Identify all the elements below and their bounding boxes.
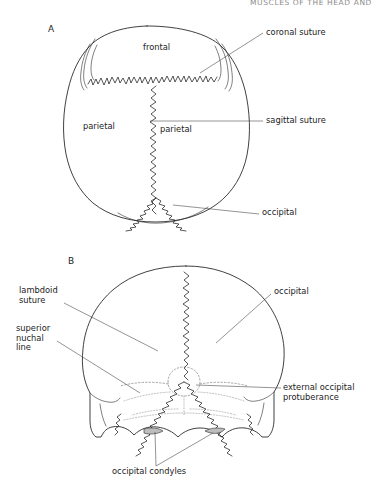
leader-occipital-b (216, 294, 271, 343)
leader-occipital-condyles-left (155, 432, 156, 466)
right-mastoid-process (244, 392, 274, 401)
occipital-condyle-left (144, 428, 163, 434)
right-temporal-margin-b (258, 403, 264, 425)
left-temporal-margin-b (100, 404, 106, 426)
superior-nuchal-line-left-lower (124, 392, 170, 401)
right-orbit-inner-a (215, 46, 221, 81)
left-mastoid-process (90, 393, 120, 402)
leader-external-occipital-protuberance (196, 385, 281, 388)
panel-letter-a: A (48, 24, 54, 34)
inferior-nuchal-line-right (190, 409, 236, 415)
label-occipital-b: occipital (274, 287, 309, 297)
right-zygomatic-arch-a (216, 39, 228, 89)
label-coronal-suture: coronal suture (266, 28, 326, 38)
label-lambdoid-suture: lambdoid suture (19, 286, 58, 305)
sagittal-suture-line-b (183, 272, 189, 380)
coronal-suture-line (88, 76, 217, 85)
occipitomastoid-suture-right (247, 414, 253, 435)
leader-occipital-a (173, 205, 259, 214)
leader-superior-nuchal-line (57, 341, 140, 393)
leader-occipital-condyles-right (156, 433, 213, 466)
label-parietal-right: parietal (160, 125, 192, 135)
label-external-occipital-protuberance: external occipital protuberance (283, 383, 355, 402)
inferior-nuchal-line-left (132, 409, 178, 415)
figure-plate: MUSCLES OF THE HEAD AND .ol { fill:none;… (0, 0, 378, 488)
label-occipital-a: occipital (262, 208, 297, 218)
label-sagittal-suture: sagittal suture (266, 116, 326, 126)
label-occipital-condyles: occipital condyles (112, 467, 186, 477)
skull-figure-svg: .ol { fill:none; stroke:#1f1f1f; stroke-… (0, 0, 378, 488)
external-occipital-protuberance-outline (168, 367, 200, 396)
occipitomastoid-suture-left (115, 414, 121, 435)
label-parietal-left: parietal (83, 122, 115, 132)
lambdoid-suture-right-a (156, 198, 186, 231)
label-superior-nuchal-line: superior nuchal line (16, 324, 50, 353)
sagittal-suture-line (150, 86, 156, 214)
label-frontal: frontal (143, 43, 170, 53)
panel-letter-b: B (68, 256, 74, 266)
superior-nuchal-line-left (120, 382, 168, 386)
superior-nuchal-line-right-lower (198, 392, 244, 401)
leader-lambdoid-suture (64, 303, 158, 351)
lambdoid-suture-left-a (126, 198, 156, 231)
left-orbit-inner-a (91, 45, 97, 80)
cranial-vault-outline-b (82, 266, 284, 437)
panel-b-drawing (57, 266, 284, 466)
